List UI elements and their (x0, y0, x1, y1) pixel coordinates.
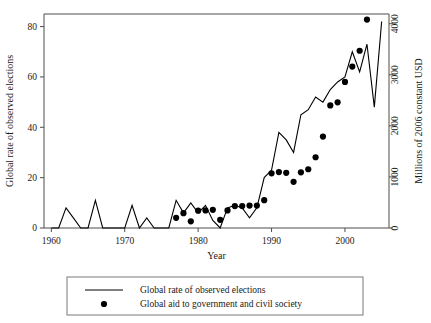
scatter-point-aid (195, 208, 201, 214)
y-tick-label-left: 20 (28, 173, 38, 183)
plot-border (44, 14, 389, 228)
scatter-point-aid (224, 207, 230, 213)
y-tick-label-left: 0 (32, 223, 37, 233)
scatter-point-aid (335, 99, 341, 105)
legend-label: Global rate of observed elections (140, 285, 266, 295)
scatter-point-aid (217, 217, 223, 223)
scatter-point-aid (210, 207, 216, 213)
scatter-point-aid (342, 79, 348, 85)
y-axis-title-right: Millions of 2006 constant USD (413, 58, 424, 184)
y-axis-right: 01000200030004000 (389, 14, 400, 230)
y-tick-label-right: 1000 (390, 167, 400, 186)
scatter-point-aid (180, 210, 186, 216)
y-axis-title-left: Global rate of observed elections (4, 55, 15, 187)
scatter-point-aid (254, 202, 260, 208)
legend-dot-marker (101, 301, 107, 307)
series-layer (51, 17, 381, 228)
scatter-point-aid (283, 170, 289, 176)
axis-titles: YearGlobal rate of observed electionsMil… (4, 55, 424, 261)
scatter-point-aid (232, 203, 238, 209)
line-series-elections (51, 22, 381, 228)
scatter-point-aid (357, 48, 363, 54)
chart-legend: Global rate of observed electionsGlobal … (67, 277, 363, 315)
x-tick-label: 2000 (335, 236, 354, 246)
scatter-point-aid (173, 215, 179, 221)
y-tick-label-right: 0 (390, 225, 400, 230)
x-tick-label: 1990 (262, 236, 281, 246)
scatter-point-aid (305, 166, 311, 172)
scatter-point-aid (202, 207, 208, 213)
chart-svg: 19601970198019902000 020406080 010002000… (0, 0, 431, 323)
scatter-point-aid (364, 17, 370, 23)
x-axis-title: Year (207, 250, 226, 261)
scatter-point-aid (276, 169, 282, 175)
scatter-point-aid (261, 197, 267, 203)
y-tick-label-left: 40 (28, 123, 38, 133)
y-tick-label-right: 3000 (390, 65, 400, 84)
x-tick-label: 1970 (115, 236, 134, 246)
scatter-point-aid (290, 179, 296, 185)
scatter-point-aid (320, 133, 326, 139)
scatter-point-aid (298, 169, 304, 175)
chart-figure: 19601970198019902000 020406080 010002000… (0, 0, 431, 323)
x-axis: 19601970198019902000 (42, 228, 355, 246)
scatter-point-aid (313, 154, 319, 160)
scatter-point-aid (239, 203, 245, 209)
y-tick-label-right: 2000 (390, 116, 400, 135)
scatter-point-aid (349, 64, 355, 70)
scatter-point-aid (246, 202, 252, 208)
plot-frame (44, 14, 389, 228)
y-tick-label-right: 4000 (390, 14, 400, 33)
y-axis-left: 020406080 (28, 22, 45, 233)
x-tick-label: 1980 (189, 236, 208, 246)
legend-label: Global aid to government and civil socie… (140, 299, 302, 309)
x-tick-label: 1960 (42, 236, 61, 246)
y-tick-label-left: 60 (28, 72, 38, 82)
scatter-point-aid (268, 170, 274, 176)
scatter-point-aid (188, 218, 194, 224)
y-tick-label-left: 80 (28, 22, 38, 32)
scatter-point-aid (327, 102, 333, 108)
